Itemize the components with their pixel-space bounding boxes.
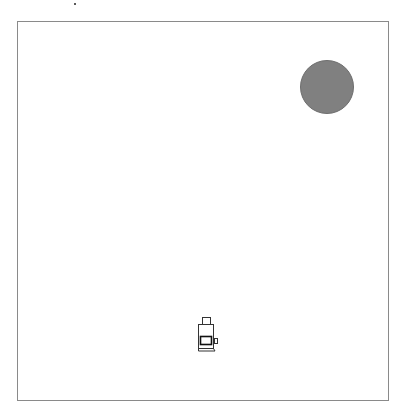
agent-sprite <box>196 317 220 353</box>
target-circle <box>300 60 354 114</box>
robot-agent-icon <box>196 317 220 353</box>
marker-dot <box>74 3 76 5</box>
